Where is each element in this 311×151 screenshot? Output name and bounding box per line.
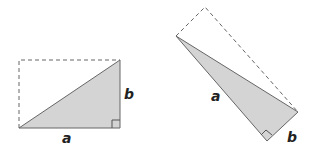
right-triangle [19, 60, 120, 128]
right-figure: a b [176, 7, 298, 145]
label-a: a [211, 88, 220, 104]
left-figure: a b [19, 60, 134, 146]
right-triangle [176, 36, 298, 141]
diagram-canvas: a b a b [0, 0, 311, 151]
label-a: a [62, 130, 71, 146]
label-b: b [124, 86, 134, 102]
label-b: b [287, 129, 297, 145]
